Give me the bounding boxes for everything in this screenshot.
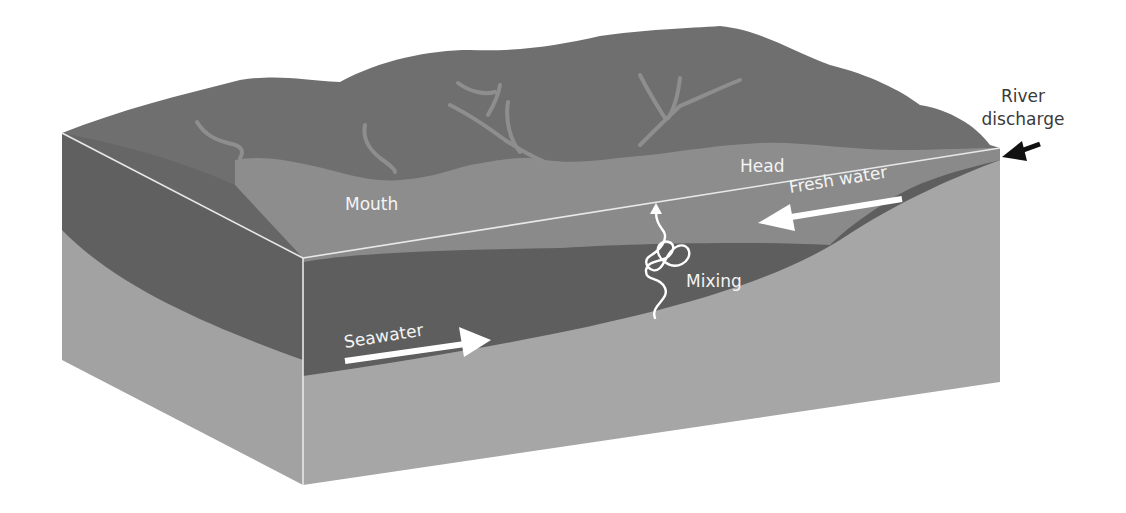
river-discharge-arrow	[1002, 141, 1040, 161]
head-label: Head	[740, 156, 784, 176]
river-discharge-label-line2: discharge	[982, 109, 1065, 129]
mouth-label: Mouth	[345, 194, 398, 214]
estuary-diagram: River discharge Mouth Head Fresh water M…	[0, 0, 1126, 513]
mixing-label: Mixing	[686, 271, 742, 291]
river-discharge-label-line1: River	[1001, 86, 1045, 106]
